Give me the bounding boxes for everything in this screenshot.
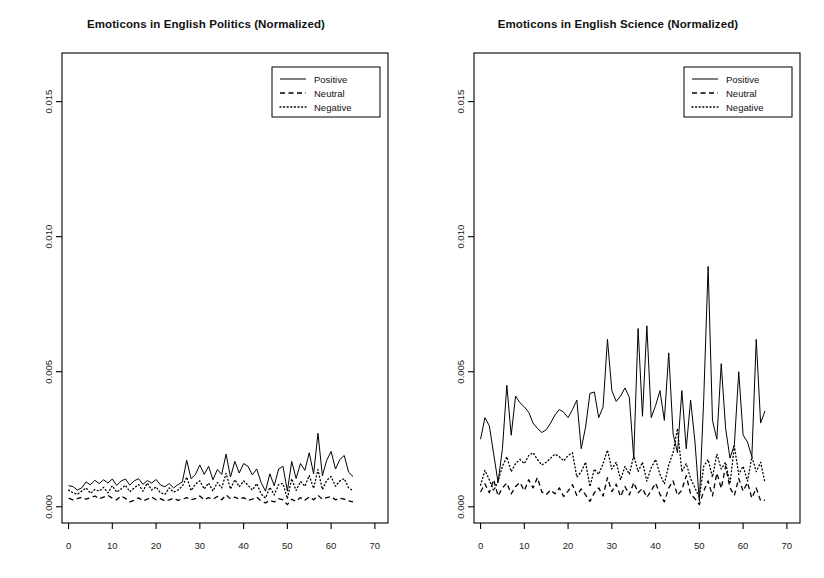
x-tick-label: 30	[195, 540, 206, 551]
legend-label-negative: Negative	[314, 102, 352, 113]
x-tick-label: 10	[519, 540, 530, 551]
x-tick-label: 70	[782, 540, 793, 551]
series-line-neutral	[69, 495, 353, 505]
plot-area-politics: 0.0000.0050.0100.015010203040506070Posit…	[0, 0, 412, 578]
x-tick-label: 0	[66, 540, 71, 551]
x-tick-label: 30	[607, 540, 618, 551]
legend-label-neutral: Neutral	[726, 88, 757, 99]
figure-canvas: Emoticons in English Politics (Normalize…	[0, 0, 824, 578]
y-tick-label: 0.010	[44, 225, 55, 249]
chart-panel-science: Emoticons in English Science (Normalized…	[412, 0, 824, 578]
x-tick-label: 50	[282, 540, 293, 551]
y-tick-label: 0.015	[44, 90, 55, 114]
series-line-neutral	[481, 466, 765, 504]
y-tick-label: 0.015	[456, 90, 467, 114]
plot-frame	[62, 53, 388, 523]
x-tick-label: 10	[107, 540, 118, 551]
x-tick-label: 20	[151, 540, 162, 551]
x-tick-label: 70	[370, 540, 381, 551]
x-tick-label: 40	[650, 540, 661, 551]
x-tick-label: 60	[738, 540, 749, 551]
x-tick-label: 20	[563, 540, 574, 551]
plot-area-science: 0.0000.0050.0100.015010203040506070Posit…	[412, 0, 824, 578]
series-line-negative	[481, 428, 765, 497]
series-line-positive	[69, 433, 353, 491]
y-tick-label: 0.000	[44, 495, 55, 519]
x-tick-label: 0	[478, 540, 483, 551]
x-tick-label: 60	[326, 540, 337, 551]
y-tick-label: 0.005	[456, 360, 467, 384]
x-tick-label: 40	[238, 540, 249, 551]
y-tick-label: 0.000	[456, 495, 467, 519]
x-tick-label: 50	[694, 540, 705, 551]
y-tick-label: 0.005	[44, 360, 55, 384]
y-tick-label: 0.010	[456, 225, 467, 249]
legend-label-neutral: Neutral	[314, 88, 345, 99]
legend-label-negative: Negative	[726, 102, 764, 113]
legend-label-positive: Positive	[314, 74, 347, 85]
chart-panel-politics: Emoticons in English Politics (Normalize…	[0, 0, 412, 578]
legend-label-positive: Positive	[726, 74, 759, 85]
